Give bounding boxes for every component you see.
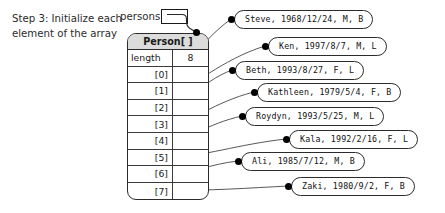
record-dot-0	[228, 16, 235, 23]
diagram-canvas: Step 3: Initialize each element of the a…	[0, 0, 445, 213]
anchor-dots	[0, 0, 445, 213]
record-dot-5	[283, 136, 290, 143]
record-dot-1	[262, 43, 269, 50]
persons-pointer-dot	[193, 29, 200, 36]
record-dot-4	[239, 113, 246, 120]
record-dot-7	[285, 183, 292, 190]
record-dot-2	[229, 67, 236, 74]
record-dot-6	[235, 158, 242, 165]
record-dot-3	[251, 89, 258, 96]
